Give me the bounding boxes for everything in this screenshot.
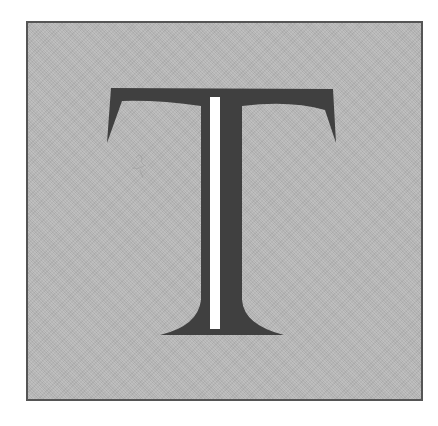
letter-t-glyph — [0, 0, 438, 426]
letter-t-shape — [107, 88, 336, 335]
stem-highlight-stripe — [210, 97, 220, 329]
smudge-mark — [132, 155, 146, 178]
